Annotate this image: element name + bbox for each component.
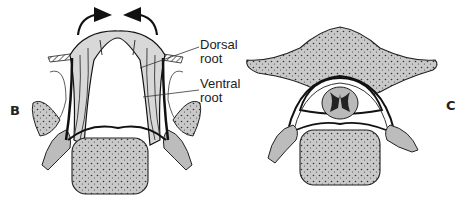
panel-b-drawing — [32, 7, 200, 194]
panel-label-b: B — [10, 103, 20, 118]
panel-c-drawing — [247, 27, 437, 185]
dorsal-root-label-line2: root — [200, 52, 238, 66]
dorsal-root-label: Dorsal root — [200, 38, 238, 66]
panel-label-c: C — [446, 98, 456, 113]
ventral-root-label-line2: root — [200, 91, 240, 105]
ventral-root-label-line1: Ventral — [200, 77, 240, 91]
dorsal-root-label-line1: Dorsal — [200, 38, 238, 52]
ventral-root-label: Ventral root — [200, 77, 240, 105]
